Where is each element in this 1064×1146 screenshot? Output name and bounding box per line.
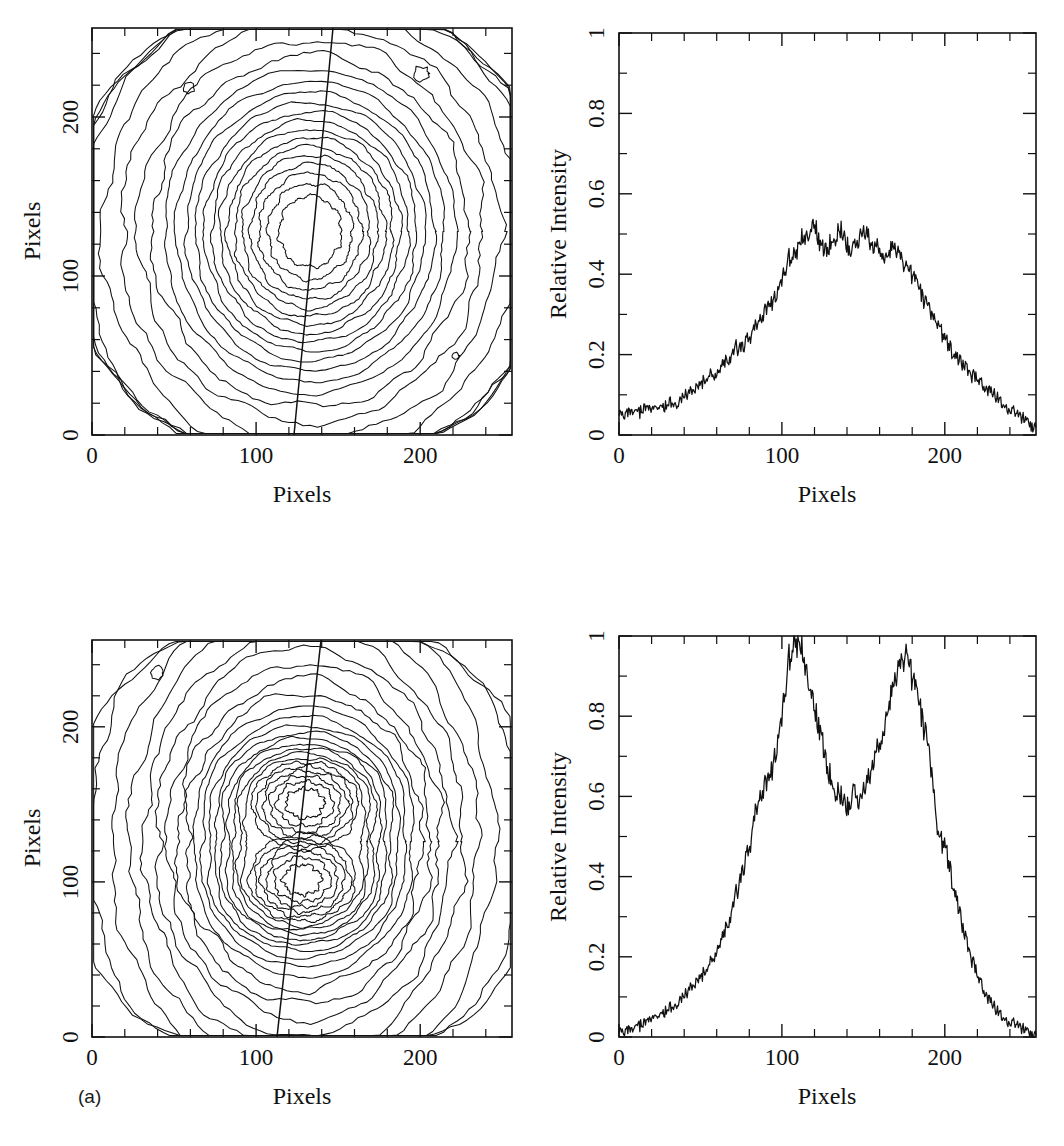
contour-level <box>165 70 459 396</box>
ytick-label-br-5: 1 <box>584 630 609 642</box>
contour-level <box>266 849 339 909</box>
contour-level <box>242 155 379 311</box>
xaxis-title-tr: Pixels <box>798 481 857 507</box>
contour-speckle <box>183 82 194 94</box>
xtick-label-br-2: 200 <box>928 1045 963 1070</box>
contour-lines-tl <box>94 30 511 434</box>
contour-plot-bottom-left: 0 100 200 0 100 200 Pixels Pixels <box>0 573 532 1146</box>
ytick-label-tl-2: 200 <box>58 100 83 135</box>
xtick-label-tl-2: 200 <box>403 443 438 468</box>
xtick-label-bl-0: 0 <box>86 1045 98 1070</box>
xaxis-title-br: Pixels <box>798 1083 857 1109</box>
axis-ticks-tr <box>619 33 1036 435</box>
contour-level <box>165 665 445 1025</box>
contour-level <box>184 91 437 371</box>
contour-level <box>280 864 323 897</box>
line-plot-bottom-right: 0 100 200 0 0.2 0.4 0.6 0.8 1 Pixels Rel… <box>532 573 1064 1146</box>
xtick-label-bl-2: 200 <box>403 1045 438 1070</box>
ytick-label-br-4: 0.8 <box>584 702 609 731</box>
figure-container: 0 100 200 0 100 200 Pixels Pixels <box>0 0 1064 1146</box>
ytick-label-br-0: 0 <box>584 1031 609 1043</box>
ytick-label-bl-0: 0 <box>58 1031 83 1043</box>
contour-level <box>219 736 387 945</box>
ytick-label-tr-4: 0.8 <box>584 99 609 128</box>
profile-line-tr <box>619 219 1036 432</box>
ytick-label-br-2: 0.4 <box>584 862 609 891</box>
ytick-label-tl-1: 100 <box>58 259 83 294</box>
panel-top-right-profile: 0 100 200 0 0.2 0.4 0.6 0.8 1 Pixels Rel… <box>532 0 1064 573</box>
ytick-label-bl-1: 100 <box>58 865 83 900</box>
xtick-label-tl-0: 0 <box>86 443 98 468</box>
contour-plot-top-left: 0 100 200 0 100 200 Pixels Pixels <box>0 0 532 573</box>
slit-line-tl <box>294 28 333 435</box>
panel-bottom-right-profile: 0 100 200 0 0.2 0.4 0.6 0.8 1 Pixels Rel… <box>532 573 1064 1146</box>
contour-level <box>134 42 484 428</box>
ytick-label-tr-1: 0.2 <box>584 340 609 369</box>
ytick-label-tr-5: 1 <box>584 27 609 39</box>
axis-ticks-br <box>619 636 1036 1037</box>
contour-level <box>218 130 402 335</box>
ytick-label-br-1: 0.2 <box>584 942 609 971</box>
axes-frame-tr <box>619 33 1036 435</box>
yaxis-title-bl: Pixels <box>19 809 45 868</box>
xtick-label-br-1: 100 <box>765 1045 800 1070</box>
contour-lines-bl <box>94 642 511 1036</box>
ytick-label-tr-2: 0.4 <box>584 259 609 288</box>
axis-ticks-tl <box>92 28 512 435</box>
xtick-label-tl-1: 100 <box>239 443 274 468</box>
contour-level <box>98 30 510 434</box>
line-plot-top-right: 0 100 200 0 0.2 0.4 0.6 0.8 1 Pixels Rel… <box>532 0 1064 573</box>
xaxis-title-bl: Pixels <box>273 1083 332 1109</box>
ytick-label-tr-3: 0.6 <box>584 179 609 208</box>
ytick-label-bl-2: 200 <box>58 710 83 745</box>
contour-level <box>174 81 445 383</box>
contour-level <box>258 844 345 914</box>
xtick-label-br-0: 0 <box>613 1045 625 1070</box>
xtick-label-tr-2: 200 <box>928 443 963 468</box>
contour-level <box>94 30 511 434</box>
contour-level <box>150 50 471 406</box>
axes-frame-tl <box>92 28 512 435</box>
xtick-label-tr-0: 0 <box>613 443 625 468</box>
ytick-label-tr-0: 0 <box>584 429 609 441</box>
xaxis-title-tl: Pixels <box>273 481 332 507</box>
contour-level <box>277 194 342 269</box>
yaxis-title-br: Relative Intensity <box>545 752 571 922</box>
contour-level <box>234 144 387 316</box>
panel-bottom-left-contour: 0 100 200 0 100 200 Pixels Pixels <box>0 573 532 1146</box>
panel-letter-a: (a) <box>78 1086 101 1108</box>
profile-line-br <box>619 636 1036 1037</box>
yaxis-title-tr: Relative Intensity <box>545 149 571 319</box>
contour-speckle <box>414 66 430 82</box>
contour-level <box>285 786 326 819</box>
axes-frame-br <box>619 636 1036 1037</box>
panel-top-left-contour: 0 100 200 0 100 200 Pixels Pixels <box>0 0 532 573</box>
ytick-label-br-3: 0.6 <box>584 782 609 811</box>
yaxis-title-tl: Pixels <box>19 202 45 261</box>
contour-level <box>94 30 511 434</box>
ytick-label-tl-0: 0 <box>58 429 83 441</box>
xtick-label-tr-1: 100 <box>765 443 800 468</box>
contour-level <box>210 118 410 342</box>
xtick-label-bl-1: 100 <box>239 1045 274 1070</box>
contour-level <box>94 30 511 434</box>
contour-level <box>94 30 511 434</box>
contour-level <box>258 172 364 291</box>
